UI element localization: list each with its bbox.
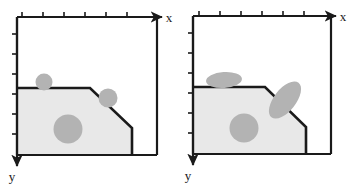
panel-left: x y	[0, 0, 181, 189]
x-axis-label: x	[166, 10, 173, 25]
panel-left-canvas: x y	[0, 0, 181, 189]
panel-right: x y	[180, 0, 361, 189]
blob-small-top	[36, 74, 53, 91]
blob-large-interior	[54, 115, 83, 144]
y-axis-label: y	[185, 168, 192, 183]
panel-right-canvas: x y	[180, 0, 361, 189]
blob-edge-diagonal	[99, 89, 118, 108]
x-axis-label: x	[340, 9, 347, 24]
y-axis-label: y	[9, 169, 16, 184]
two-panel-diagram: x y	[0, 0, 361, 189]
blob-large-interior	[230, 114, 259, 143]
